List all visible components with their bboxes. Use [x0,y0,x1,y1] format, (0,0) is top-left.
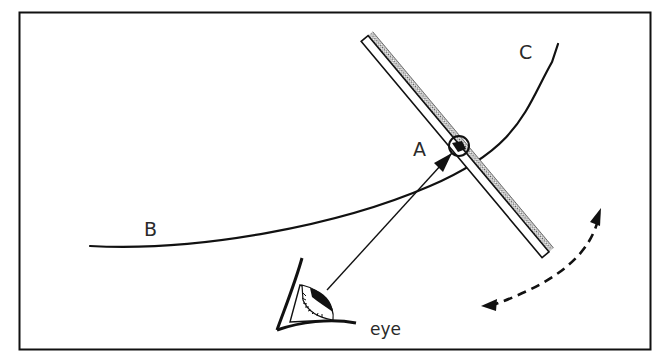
rotation-arrowhead-down [481,299,497,311]
label-curve-c: C [519,43,532,62]
sight-line [327,153,452,290]
rotation-arrow-dashed [490,220,598,306]
label-point-a: A [413,140,426,159]
eye-icon [277,258,356,330]
curve-bac [90,44,558,247]
rotation-arrowhead-up [590,208,601,226]
label-curve-b: B [144,220,157,239]
diagram-figure: A B C eye [0,0,659,364]
figure-frame [20,13,651,350]
label-eye: eye [370,321,401,338]
